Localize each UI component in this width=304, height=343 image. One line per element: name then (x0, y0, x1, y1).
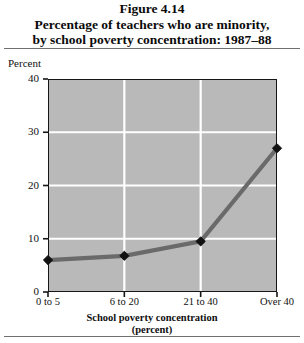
x-axis-title-line-2: (percent) (0, 324, 304, 337)
x-tick-label: 21 to 40 (168, 296, 234, 307)
x-tick-label: 0 to 5 (15, 296, 81, 307)
y-tick-label: 20 (13, 179, 39, 191)
x-tick-marks (48, 292, 277, 297)
y-tick-label: 40 (13, 72, 39, 84)
figure-title-line-2: by school poverty concentration: 1987–88 (0, 32, 304, 48)
x-axis-title-line-1: School poverty concentration (0, 312, 304, 325)
title-divider-rule (4, 48, 300, 49)
plot-area (48, 79, 277, 292)
figure-number: Figure 4.14 (0, 1, 304, 17)
y-tick-label: 10 (13, 232, 39, 244)
x-tick-label: 6 to 20 (91, 296, 157, 307)
y-axis-label: Percent (8, 57, 41, 69)
x-tick-label: Over 40 (244, 296, 304, 307)
y-tick-label: 30 (13, 125, 39, 137)
figure-title: Figure 4.14 Percentage of teachers who a… (0, 1, 304, 48)
figure-title-line-1: Percentage of teachers who are minority, (0, 17, 304, 33)
footer-divider-rule (4, 336, 300, 337)
figure-container: Figure 4.14 Percentage of teachers who a… (0, 0, 304, 343)
